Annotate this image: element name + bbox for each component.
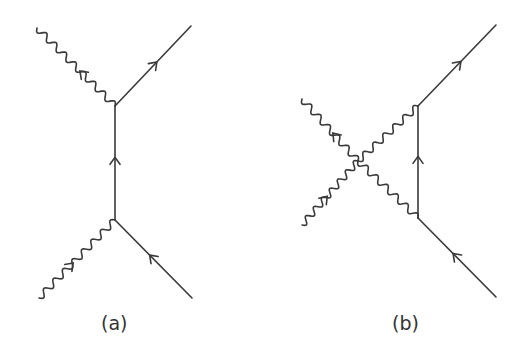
fermion-line [418,218,496,297]
panel-label-b: (b) [392,314,419,333]
fermion-line [115,26,191,106]
fermion-line [418,25,496,106]
panel-label-a: (a) [101,314,127,333]
diagram-a [37,26,192,298]
diagram-b [301,25,496,297]
photon-line [301,99,358,161]
photon-line [302,161,358,226]
photon-line [37,28,116,106]
feynman-diagram-canvas [0,0,525,362]
fermion-line [115,220,192,298]
internal-photon-line [358,161,419,218]
internal-photon-line [358,105,418,161]
photon-line [39,220,115,299]
